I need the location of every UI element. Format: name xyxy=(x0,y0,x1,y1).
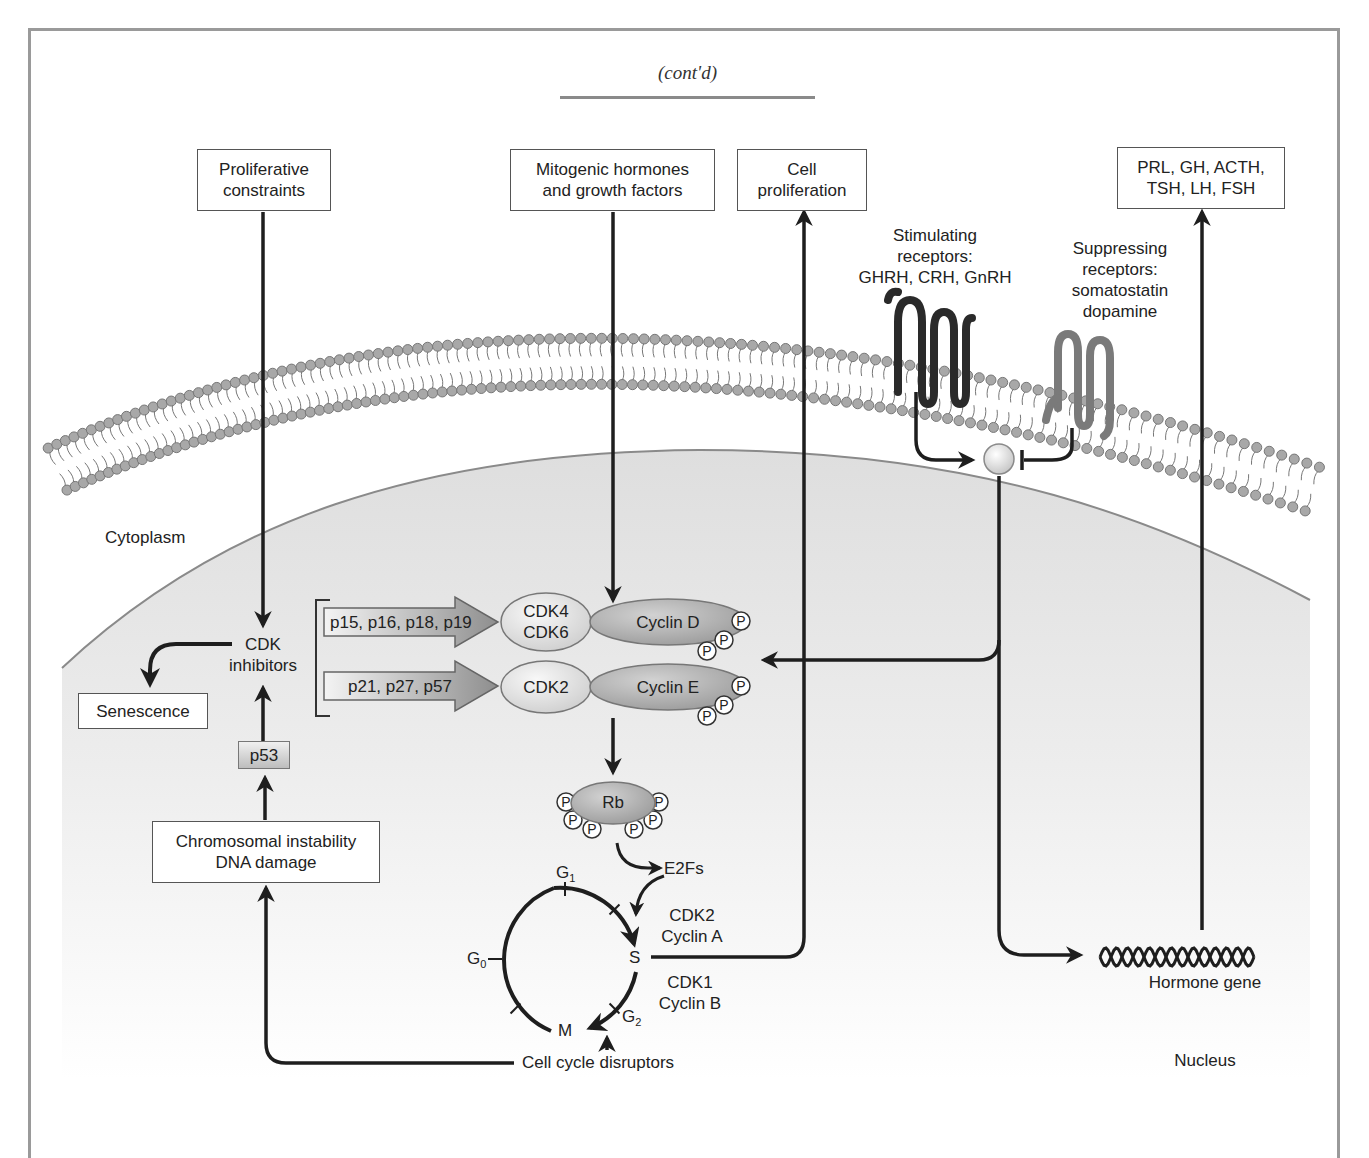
lipid-head xyxy=(704,337,714,347)
supp-line-4: dopamine xyxy=(1045,301,1195,322)
lipid-head xyxy=(503,336,513,346)
lipid-tail xyxy=(119,449,124,462)
cytoplasm-label: Cytoplasm xyxy=(105,527,185,548)
lipid-head xyxy=(733,385,743,395)
lipid-head xyxy=(1263,494,1273,504)
cell-cycle-disruptors-label: Cell cycle disruptors xyxy=(522,1052,674,1073)
lipid-tail xyxy=(685,345,687,359)
lipid-head xyxy=(814,347,824,357)
lipid-head xyxy=(627,380,637,390)
lipid-head xyxy=(476,384,486,394)
cell-proliferation-line-1: Cell xyxy=(787,159,816,180)
lipid-head xyxy=(1288,502,1298,512)
cdk1-cyclin-b-label: CDK1 Cyclin B xyxy=(650,972,730,1014)
lipid-head xyxy=(701,383,711,393)
lipid-tail xyxy=(224,414,228,427)
lipid-head xyxy=(1165,465,1175,475)
lipid-tail xyxy=(1129,417,1133,431)
lipid-tail xyxy=(500,369,502,383)
lipid-tail xyxy=(145,414,150,427)
lipid-head xyxy=(399,391,409,401)
lipid-tail xyxy=(110,427,115,440)
lipid-head xyxy=(965,418,975,428)
lipid-tail xyxy=(1276,459,1280,472)
lipid-head xyxy=(486,383,496,393)
lipid-tail xyxy=(1239,448,1243,461)
lipid-head xyxy=(514,335,524,345)
hormones-line-1: PRL, GH, ACTH, xyxy=(1137,157,1265,178)
lipid-head xyxy=(408,390,418,400)
chromosomal-box: Chromosomal instability DNA damage xyxy=(152,821,380,883)
lipid-tail xyxy=(392,380,395,394)
lipid-tail xyxy=(1196,460,1200,473)
lipid-head xyxy=(428,388,438,398)
lipid-head xyxy=(269,415,279,425)
lipid-tail xyxy=(794,354,796,368)
lipid-head xyxy=(1251,490,1261,500)
stim-line-2: receptors: xyxy=(840,246,1030,267)
nucleus-label: Nucleus xyxy=(1160,1050,1250,1071)
lipid-tail xyxy=(373,383,376,397)
lipid-head xyxy=(853,399,863,409)
lipid-tail xyxy=(288,398,291,412)
lipid-head xyxy=(1141,411,1151,421)
lipid-tail xyxy=(761,350,763,364)
lipid-tail xyxy=(783,352,785,366)
lipid-head xyxy=(324,403,334,413)
cip-kip-label: p21, p27, p57 xyxy=(340,676,460,697)
lipid-head xyxy=(433,341,443,351)
lipid-tail xyxy=(273,377,277,391)
lipid-head xyxy=(334,355,344,365)
lipid-tail xyxy=(102,456,107,469)
lipid-head xyxy=(305,407,315,417)
lipid-tail xyxy=(320,367,323,381)
lipid-head xyxy=(1047,435,1057,445)
mitogenic-line-1: Mitogenic hormones xyxy=(536,159,689,180)
lipid-tail xyxy=(227,389,231,403)
g0-label: G0 xyxy=(467,948,486,975)
lipid-head xyxy=(747,340,757,350)
lipid-tail xyxy=(825,381,827,395)
lipid-tail xyxy=(507,345,509,359)
lipid-head xyxy=(383,347,393,357)
lipid-tail xyxy=(770,375,772,389)
lipid-tail xyxy=(1220,467,1224,480)
lipid-tail xyxy=(60,474,66,487)
hormone-gene-label: Hormone gene xyxy=(1130,972,1280,993)
lipid-tail xyxy=(398,355,401,369)
lipid-tail xyxy=(154,411,159,424)
lipid-head xyxy=(650,334,660,344)
cdk1b-line-1: CDK1 xyxy=(650,972,730,993)
lipid-head xyxy=(315,405,325,415)
lipid-tail xyxy=(1184,456,1188,469)
lipid-head xyxy=(536,380,546,390)
lipid-tail xyxy=(994,410,997,424)
lipid-tail xyxy=(1257,478,1261,491)
lipid-tail xyxy=(110,452,115,465)
lipid-head xyxy=(671,335,681,345)
lipid-tail xyxy=(858,386,861,400)
lipid-tail xyxy=(421,376,423,390)
lipid-head xyxy=(175,393,185,403)
lipid-head xyxy=(524,335,534,345)
phosphate-label: P xyxy=(702,708,711,724)
lipid-head xyxy=(344,353,354,363)
s-phase-label: S xyxy=(629,947,640,968)
cdk6-text: CDK6 xyxy=(506,622,586,643)
lipid-tail xyxy=(1111,437,1115,451)
lipid-tail xyxy=(67,444,73,457)
lipid-head xyxy=(638,380,648,390)
lipid-tail xyxy=(279,401,283,415)
lipid-tail xyxy=(727,371,729,385)
lipid-head xyxy=(473,338,483,348)
lipid-tail xyxy=(427,351,429,365)
lipid-tail xyxy=(162,433,167,446)
lipid-tail xyxy=(251,407,255,421)
lipid-head xyxy=(886,404,896,414)
lipid-head xyxy=(648,380,658,390)
lipid-head xyxy=(988,422,998,432)
lipid-head xyxy=(998,377,1008,387)
lipid-tail xyxy=(301,371,304,385)
lipid-tail xyxy=(1064,425,1067,439)
lipid-head xyxy=(628,334,638,344)
